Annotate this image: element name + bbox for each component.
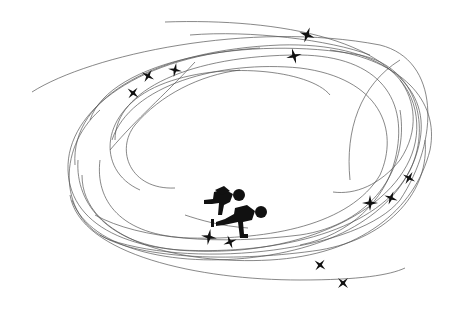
- sparkle-icon: [221, 233, 239, 251]
- sparkle-icon: [123, 83, 143, 103]
- speed-skaters-icon: [204, 186, 267, 238]
- sparkle-icon: [200, 228, 219, 247]
- sparkle-icon: [297, 25, 318, 46]
- speed-skating-illustration: [0, 0, 460, 317]
- sparkle-icon: [284, 46, 304, 66]
- sparkle-icon: [333, 273, 353, 293]
- sparkle-icon: [310, 255, 330, 275]
